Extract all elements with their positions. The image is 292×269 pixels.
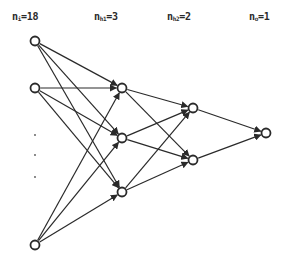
- connection-arrow: [39, 142, 119, 240]
- input-layer-label: ni=18: [12, 11, 38, 22]
- hidden1-node-2: [118, 134, 127, 143]
- input-node-1: [31, 37, 40, 46]
- ellipsis-dot: [34, 154, 36, 156]
- hidden1-node-1: [118, 84, 127, 93]
- hidden1-layer-label: nh1=3: [94, 11, 118, 22]
- connection-arrow: [40, 91, 117, 136]
- label-value: =18: [21, 11, 38, 22]
- network-nodes: [31, 37, 271, 250]
- output-layer-label: no=1: [249, 11, 270, 22]
- label-value: =2: [179, 11, 190, 22]
- connection-arrow: [40, 195, 118, 242]
- input-node-2: [31, 84, 40, 93]
- connection-edges: [38, 44, 261, 243]
- output-node-1: [262, 129, 271, 138]
- ellipsis-dots: [34, 134, 36, 178]
- hidden2-layer-label: nh2=2: [167, 11, 191, 22]
- label-value: =1: [258, 11, 269, 22]
- ellipsis-dot: [34, 134, 36, 136]
- hidden1-node-3: [118, 188, 127, 197]
- connection-arrow: [39, 45, 119, 134]
- connection-arrow: [198, 110, 261, 131]
- hidden2-node-2: [189, 156, 198, 165]
- connection-arrow: [40, 44, 117, 86]
- ellipsis-dot: [34, 176, 36, 178]
- connection-arrow: [39, 92, 119, 188]
- hidden2-node-1: [189, 104, 198, 113]
- connection-arrow: [198, 135, 261, 158]
- connection-arrow: [127, 90, 187, 107]
- connection-arrow: [127, 140, 187, 159]
- connection-arrow: [127, 110, 188, 136]
- neural-network-diagram: [0, 0, 292, 269]
- label-value: =3: [106, 11, 117, 22]
- input-node-3: [31, 241, 40, 250]
